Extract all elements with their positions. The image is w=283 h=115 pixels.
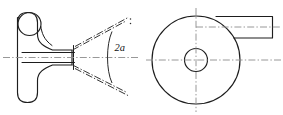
technical-drawing-figure: 2a: [0, 0, 283, 115]
drawing-canvas: 2a: [0, 0, 283, 115]
cone-end-dot-lower: [130, 23, 132, 25]
cone-angle-label: 2a: [115, 42, 126, 53]
left-side-view: 2a: [3, 13, 138, 103]
spray-cone-lower-outer: [75, 69, 129, 97]
right-end-view: [146, 8, 283, 112]
spray-cone-lower-inner: [73, 65, 127, 92]
cone-end-dot-upper: [130, 18, 132, 20]
top-neck-arc: [41, 27, 52, 46]
